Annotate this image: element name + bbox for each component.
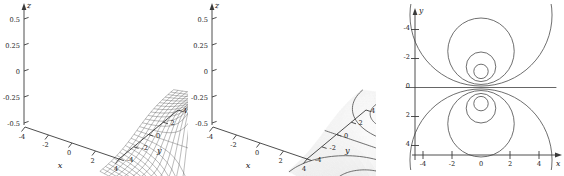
x-tick-b-3: 2 [278,157,282,165]
y-tick-b-2: 0 [344,132,348,140]
z-tick-b-2: 0 [204,68,208,76]
shaded-surface-svg: z 0.5 0.25 0 -0.25 -0.5 -4 -2 0 2 4 x [188,0,376,176]
y-axis-a [119,110,183,161]
x-tick-c-2: 0 [479,160,483,168]
z-tick-a-2: 0 [16,68,20,76]
x-tick-b-2: 0 [255,149,259,157]
x-tick-c-0: -4 [420,160,426,168]
y-tick-a-0: -4 [127,156,133,164]
y-axis-label-b: y [344,145,350,155]
y-axis-label-c: y [418,6,424,15]
x-tick-a-3: 2 [90,157,94,165]
z-axis-label-b: z [214,1,220,10]
contour-map-svg: y x -4 -2 0 2 4 4 2 0 -2 -4 [376,0,564,176]
x-tick-b-0: -4 [207,133,213,141]
x-tick-c-3: 2 [508,160,512,168]
x-axis-b [210,127,308,164]
z-tick-a-4: -0.5 [7,120,20,128]
z-tick-b-3: -0.25 [191,94,208,102]
x-tick-a-2: 0 [67,149,71,157]
panel-contour-map: y x -4 -2 0 2 4 4 2 0 -2 -4 [376,0,564,176]
y-tick-a-3: 2 [171,119,175,127]
x-axis-label-c: x [556,159,561,168]
z-tick-a-3: -0.25 [3,94,20,102]
wireframe-surface-svg: z 0.5 0.25 0 -0.25 -0.5 -4 -2 0 2 4 x [0,0,188,176]
y-tick-a-4: 4 [183,107,187,115]
z-tick-b-1: 0.25 [193,42,208,50]
x-axis-label-b: x [246,160,251,170]
y-tick-c-0: 4 [406,140,410,148]
x-tick-a-0: -4 [19,133,25,141]
y-tick-b-0: -4 [315,156,321,164]
x-tick-c-4: 4 [537,160,541,168]
x-tick-b-4: 4 [302,165,306,173]
y-tick-b-1: -2 [330,144,336,152]
three-panel-figure: z 0.5 0.25 0 -0.25 -0.5 -4 -2 0 2 4 x [0,0,564,176]
y-tick-b-3: 2 [359,119,363,127]
y-tick-a-1: -2 [142,144,148,152]
x-tick-c-1: -2 [449,160,455,168]
z-axis-label-a: z [26,1,32,10]
y-tick-c-2: 0 [406,82,410,90]
x-tick-a-4: 4 [114,165,118,173]
z-tick-b-0: 0.5 [198,16,209,24]
x-axis-a [22,127,120,164]
y-tick-c-1: 2 [406,111,410,119]
z-tick-b-4: -0.5 [195,120,208,128]
panel-shaded-surface: z 0.5 0.25 0 -0.25 -0.5 -4 -2 0 2 4 x [188,0,376,176]
y-tick-b-4: 4 [371,107,375,115]
z-tick-a-0: 0.5 [10,16,21,24]
y-tick-c-4: -4 [404,24,410,32]
z-tick-a-1: 0.25 [5,42,20,50]
x-tick-a-1: -2 [42,141,48,149]
x-tick-b-1: -2 [230,141,236,149]
x-axis-label-a: x [58,160,63,170]
y-tick-a-2: 0 [156,132,160,140]
z-axis-a [22,3,29,125]
surface-mesh-a [100,90,188,176]
y-axis-label-a: y [156,145,162,155]
z-axis-b [210,3,217,125]
y-tick-c-3: -2 [404,53,410,61]
contour-level-curves [406,0,557,176]
panel-wireframe-surface: z 0.5 0.25 0 -0.25 -0.5 -4 -2 0 2 4 x [0,0,188,176]
